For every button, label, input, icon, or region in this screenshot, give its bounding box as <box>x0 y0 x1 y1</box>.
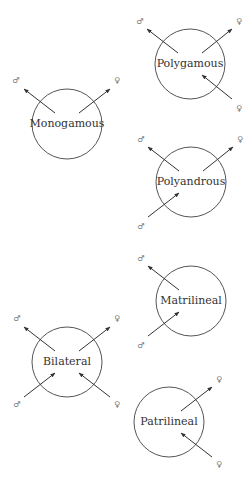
node-label: Monogamous <box>30 117 105 130</box>
arrow-in <box>148 312 179 336</box>
arrow-out <box>181 387 212 411</box>
female-symbol-icon: ♀ <box>216 375 222 384</box>
male-symbol-icon: ♂ <box>13 314 20 323</box>
node-polyandrous: Polyandrous♂♀♂ <box>137 135 243 231</box>
node-polygamous: Polygamous♂♀♀ <box>136 17 242 113</box>
female-symbol-icon: ♀ <box>114 400 120 409</box>
node-patrilineal: Patrilineal♀♀ <box>134 375 222 469</box>
arrow-out <box>24 89 55 113</box>
male-symbol-icon: ♂ <box>13 400 20 409</box>
female-symbol-icon: ♀ <box>236 104 242 113</box>
female-symbol-icon: ♀ <box>237 135 243 144</box>
arrow-out <box>148 147 179 171</box>
arrow-out <box>79 89 110 113</box>
arrow-out <box>148 266 179 290</box>
arrow-in <box>148 193 179 217</box>
node-monogamous: Monogamous♂♀ <box>12 76 120 160</box>
female-symbol-icon: ♀ <box>114 76 120 85</box>
node-label: Matrilineal <box>160 294 222 307</box>
male-symbol-icon: ♂ <box>137 135 144 144</box>
node-label: Bilateral <box>43 355 91 368</box>
male-symbol-icon: ♂ <box>136 17 143 26</box>
arrow-out <box>147 29 178 53</box>
female-symbol-icon: ♀ <box>216 460 222 469</box>
node-label: Polygamous <box>157 57 224 70</box>
male-symbol-icon: ♂ <box>12 76 19 85</box>
male-symbol-icon: ♂ <box>137 254 144 263</box>
node-label: Polyandrous <box>157 175 226 188</box>
male-symbol-icon: ♂ <box>137 222 144 231</box>
arrow-out <box>24 327 55 351</box>
arrow-in <box>79 373 110 397</box>
female-symbol-icon: ♀ <box>114 314 120 323</box>
node-matrilineal: Matrilineal♂♂ <box>137 254 226 350</box>
arrow-out <box>79 327 110 351</box>
arrow-in <box>181 433 212 457</box>
node-bilateral: Bilateral♂♀♂♀ <box>13 314 120 409</box>
node-label: Patrilineal <box>140 415 198 428</box>
female-symbol-icon: ♀ <box>236 17 242 26</box>
kinship-diagram: Monogamous♂♀Polygamous♂♀♀Polyandrous♂♀♂M… <box>0 0 249 480</box>
arrow-in <box>24 373 55 397</box>
male-symbol-icon: ♂ <box>137 341 144 350</box>
